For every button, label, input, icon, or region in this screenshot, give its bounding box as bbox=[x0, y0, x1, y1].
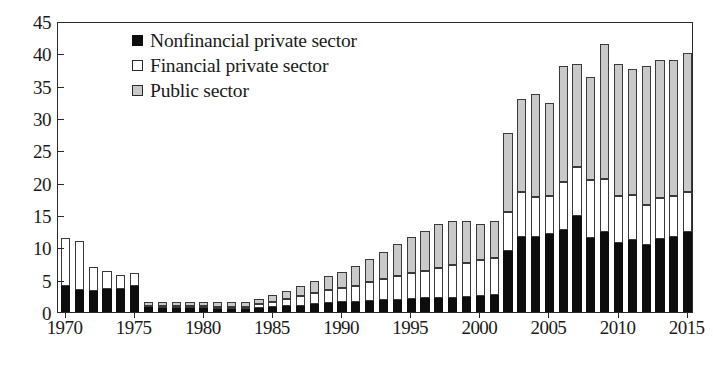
bar-segment-nonfin bbox=[642, 245, 651, 312]
bar-segment-nonfin bbox=[490, 295, 499, 312]
bar-segment-pub bbox=[379, 252, 388, 279]
x-axis-tick-label: 1975 bbox=[116, 318, 152, 337]
x-axis-tick-label: 1990 bbox=[323, 318, 359, 337]
bar-1972 bbox=[89, 267, 98, 312]
bar-1984 bbox=[254, 299, 263, 312]
bar-segment-nonfin bbox=[503, 251, 512, 312]
bar-segment-nonfin bbox=[116, 289, 125, 312]
bar-segment-nonfin bbox=[545, 234, 554, 312]
bar-segment-pub bbox=[227, 302, 236, 307]
x-axis-tick-mark bbox=[410, 313, 411, 318]
bar-1977 bbox=[158, 302, 167, 312]
y-axis-tick-mark bbox=[57, 151, 64, 152]
bar-2010 bbox=[614, 64, 623, 312]
bar-2015 bbox=[683, 53, 692, 312]
bar-segment-nonfin bbox=[655, 239, 664, 312]
y-axis-tick-label: 30 bbox=[3, 110, 51, 129]
y-axis-tick-label: 0 bbox=[3, 304, 51, 323]
legend-item-nonfinancial: Nonfinancial private sector bbox=[132, 28, 357, 53]
bar-2007 bbox=[572, 64, 581, 312]
bar-segment-fin bbox=[393, 276, 402, 299]
bar-segment-fin bbox=[379, 279, 388, 300]
bar-segment-pub bbox=[282, 291, 291, 299]
x-axis-tick-label: 2015 bbox=[669, 318, 705, 337]
bar-2003 bbox=[517, 99, 526, 312]
bar-segment-nonfin bbox=[241, 309, 250, 312]
bar-segment-nonfin bbox=[531, 237, 540, 312]
bar-1994 bbox=[393, 244, 402, 312]
legend-item-public: Public sector bbox=[132, 78, 357, 103]
bar-2002 bbox=[503, 133, 512, 312]
bar-1978 bbox=[172, 302, 181, 312]
x-axis-tick-label: 2010 bbox=[600, 318, 636, 337]
y-axis-tick-label: 20 bbox=[3, 174, 51, 193]
bar-segment-pub bbox=[324, 276, 333, 290]
bar-segment-fin bbox=[89, 267, 98, 291]
y-axis-tick-mark bbox=[57, 248, 64, 249]
bar-segment-fin bbox=[324, 290, 333, 303]
bar-segment-pub bbox=[614, 64, 623, 195]
bar-segment-fin bbox=[490, 258, 499, 296]
bar-segment-nonfin bbox=[462, 297, 471, 312]
y-axis-tick-mark bbox=[57, 119, 64, 120]
bar-1995 bbox=[407, 237, 416, 312]
legend-swatch-public-icon bbox=[132, 85, 143, 96]
bar-1988 bbox=[310, 281, 319, 312]
bar-segment-nonfin bbox=[102, 289, 111, 312]
bar-segment-nonfin bbox=[144, 307, 153, 312]
bar-segment-pub bbox=[213, 302, 222, 307]
x-axis-tick-mark bbox=[134, 313, 135, 318]
bar-segment-nonfin bbox=[379, 300, 388, 312]
bar-1986 bbox=[282, 291, 291, 312]
bar-segment-pub bbox=[185, 302, 194, 306]
bar-1993 bbox=[379, 252, 388, 312]
bar-segment-fin bbox=[655, 198, 664, 239]
bar-segment-fin bbox=[268, 302, 277, 308]
bar-segment-pub bbox=[337, 272, 346, 288]
bar-1987 bbox=[296, 286, 305, 312]
bar-segment-pub bbox=[199, 302, 208, 306]
bar-segment-pub bbox=[448, 221, 457, 266]
bar-segment-fin bbox=[448, 265, 457, 297]
y-axis-tick-mark bbox=[57, 184, 64, 185]
bar-segment-fin bbox=[199, 306, 208, 308]
stacked-bar-chart: 051015202530354045 197019751980198519901… bbox=[0, 0, 713, 366]
bar-1973 bbox=[102, 271, 111, 312]
y-axis-tick-label: 45 bbox=[3, 13, 51, 32]
bar-1992 bbox=[365, 259, 374, 312]
bar-segment-pub bbox=[434, 224, 443, 268]
bar-1976 bbox=[144, 302, 153, 312]
bar-segment-pub bbox=[268, 295, 277, 301]
bar-segment-fin bbox=[517, 192, 526, 237]
bar-segment-fin bbox=[407, 273, 416, 299]
bar-segment-pub bbox=[351, 266, 360, 285]
bar-segment-nonfin bbox=[337, 302, 346, 312]
bar-segment-nonfin bbox=[586, 238, 595, 312]
bar-segment-nonfin bbox=[669, 237, 678, 312]
bar-segment-fin bbox=[61, 238, 70, 287]
bar-segment-pub bbox=[600, 44, 609, 180]
bar-segment-fin bbox=[213, 307, 222, 309]
bar-segment-pub bbox=[476, 224, 485, 260]
x-axis-tick-label: 2005 bbox=[531, 318, 567, 337]
legend-swatch-financial-icon bbox=[132, 60, 143, 71]
bar-segment-nonfin bbox=[254, 308, 263, 312]
bar-segment-nonfin bbox=[407, 299, 416, 312]
bar-segment-pub bbox=[683, 53, 692, 191]
bar-2013 bbox=[655, 60, 664, 312]
x-axis-tick-label: 1985 bbox=[254, 318, 290, 337]
bar-1991 bbox=[351, 266, 360, 312]
bar-segment-pub bbox=[420, 231, 429, 271]
bar-segment-fin bbox=[420, 271, 429, 299]
x-axis-tick-label: 1970 bbox=[47, 318, 83, 337]
bar-segment-fin bbox=[559, 182, 568, 230]
bar-segment-pub bbox=[393, 244, 402, 276]
bar-1996 bbox=[420, 231, 429, 312]
bar-segment-fin bbox=[102, 271, 111, 288]
y-axis-tick-mark bbox=[57, 54, 64, 55]
bar-segment-pub bbox=[669, 60, 678, 196]
bar-segment-nonfin bbox=[130, 286, 139, 312]
bar-segment-fin bbox=[282, 299, 291, 306]
bar-1999 bbox=[462, 221, 471, 312]
bar-segment-pub bbox=[241, 302, 250, 307]
